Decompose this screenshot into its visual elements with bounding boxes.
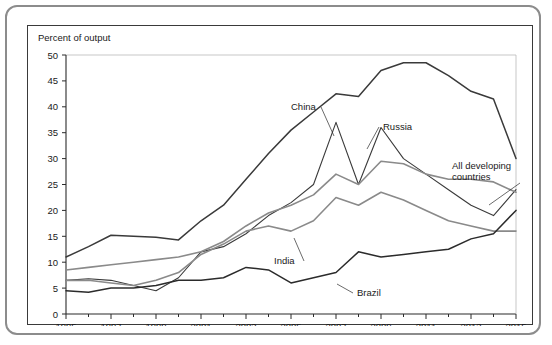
- y-tick-label: 45: [47, 75, 58, 86]
- annotation-label: All developing: [452, 160, 511, 171]
- x-tick-label: 1999: [145, 321, 166, 326]
- annotation-leader-line: [321, 107, 334, 136]
- series-line-all-developing-countries: [66, 161, 516, 270]
- chart-frame: Percent of output 0510152025303540455019…: [5, 5, 541, 335]
- x-tick-label: 1997: [100, 321, 121, 326]
- x-tick-label: 2009: [370, 321, 391, 326]
- series-annotation-all-developing-countries: All developingcountries: [452, 160, 520, 205]
- x-tick-label: 2015: [505, 321, 526, 326]
- y-tick-label: 15: [47, 231, 58, 242]
- y-tick-label: 25: [47, 179, 58, 190]
- annotation-leader-line: [337, 284, 353, 293]
- x-tick-label: 2001: [190, 321, 211, 326]
- x-tick-label: 2011: [416, 321, 436, 326]
- series-annotation-china: China: [291, 101, 334, 136]
- y-tick-label: 5: [53, 283, 58, 294]
- y-tick-label: 40: [47, 101, 58, 112]
- annotation-label: Brazil: [357, 287, 381, 298]
- y-tick-label: 50: [47, 50, 58, 61]
- y-tick-label: 0: [53, 309, 58, 320]
- y-tick-label: 30: [47, 153, 58, 164]
- line-chart: 0510152025303540455019951997199920012003…: [28, 26, 534, 326]
- x-tick-label: 2003: [235, 321, 256, 326]
- chart-inner-border: Percent of output 0510152025303540455019…: [27, 25, 533, 325]
- series-line-india: [66, 192, 516, 285]
- annotation-label: India: [274, 255, 295, 266]
- annotation-label-line2: countries: [452, 171, 491, 182]
- annotation-leader-line: [294, 238, 304, 261]
- y-tick-label: 20: [47, 205, 58, 216]
- x-tick-label: 2007: [325, 321, 346, 326]
- series-annotation-brazil: Brazil: [337, 284, 381, 298]
- x-tick-label: 2013: [460, 321, 481, 326]
- x-tick-label: 1995: [55, 321, 76, 326]
- x-tick-label: 2005: [280, 321, 301, 326]
- y-tick-label: 10: [47, 257, 58, 268]
- y-tick-label: 35: [47, 127, 58, 138]
- annotation-label: China: [291, 101, 317, 112]
- series-annotation-india: India: [274, 238, 304, 266]
- series-line-brazil: [66, 210, 516, 292]
- annotation-label: Russia: [383, 121, 413, 132]
- series-line-china: [66, 63, 516, 257]
